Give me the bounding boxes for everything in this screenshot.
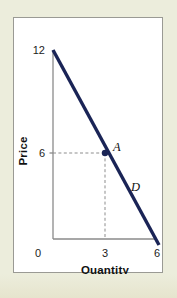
y-tick-label-12: 12 — [33, 44, 45, 56]
x-tick-label-3: 3 — [102, 247, 108, 259]
x-tick-label-6: 6 — [154, 247, 160, 259]
curve-d-label: D — [130, 180, 140, 194]
x-axis-title: Quantity — [81, 264, 130, 274]
point-a-marker — [102, 150, 108, 156]
chart-panel: 12 6 0 3 6 A D Quantity Price — [13, 17, 163, 273]
y-axis-title: Price — [17, 136, 29, 165]
x-tick-label-0: 0 — [35, 247, 41, 259]
y-tick-label-6: 6 — [39, 147, 45, 159]
demand-curve-line — [53, 50, 159, 245]
demand-curve-chart: 12 6 0 3 6 A D Quantity Price — [14, 18, 164, 274]
point-a-label: A — [112, 140, 121, 154]
figure-background: 12 6 0 3 6 A D Quantity Price — [0, 0, 177, 298]
